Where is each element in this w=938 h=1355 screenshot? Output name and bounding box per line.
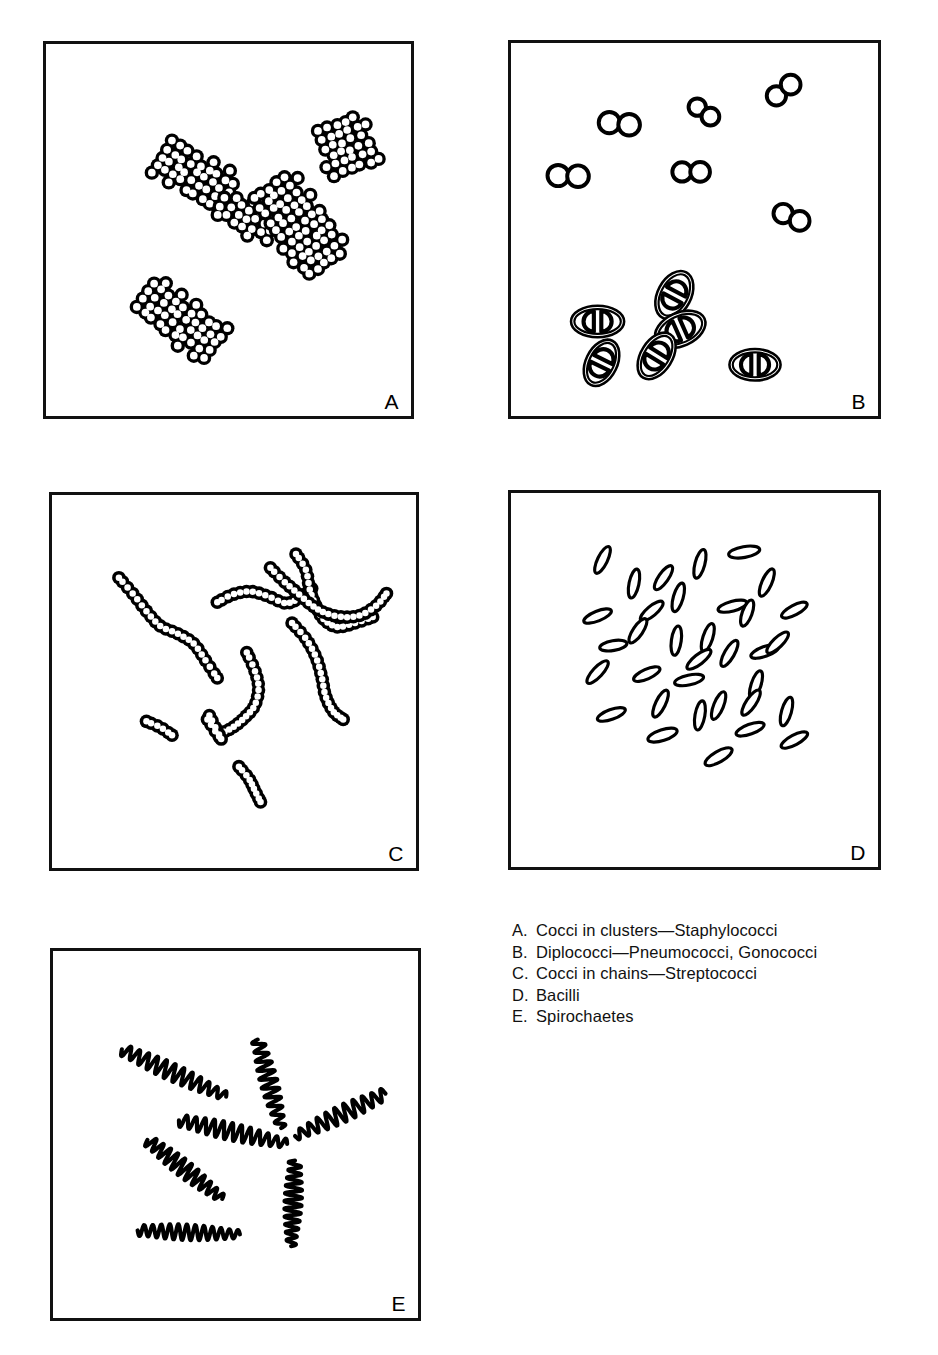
chain-coccus-lumen — [306, 640, 312, 646]
coccus-lumen — [300, 264, 308, 272]
panel-a-drawing — [46, 44, 411, 416]
coccus-lumen — [244, 232, 252, 240]
coccus-lumen — [190, 352, 198, 360]
coccus-lumen — [193, 153, 201, 161]
panel-b-diplococci: B — [508, 40, 881, 419]
coccus-lumen — [230, 219, 238, 227]
coccus-lumen — [161, 166, 169, 174]
coccus-lumen — [328, 231, 336, 239]
coccus-lumen — [238, 223, 246, 231]
chain-coccus-lumen — [255, 680, 261, 686]
panel-b-letter: B — [851, 391, 866, 412]
coccus-lumen — [223, 211, 231, 219]
diplococcus-cell — [781, 75, 801, 95]
coccus-lumen — [172, 298, 180, 306]
coccus-lumen — [367, 159, 375, 167]
panel-d-drawing — [511, 493, 878, 867]
coccus-lumen — [318, 226, 326, 234]
coccus-lumen — [189, 190, 197, 198]
chain-coccus-lumen — [237, 589, 243, 595]
legend-item: C.Cocci in chains—Streptococci — [512, 963, 912, 985]
chain-coccus-lumen — [246, 654, 252, 660]
coccus-lumen — [303, 238, 311, 246]
bacillus-rod — [703, 744, 735, 769]
coccus-lumen — [206, 200, 214, 208]
spirochaete-filament — [252, 1040, 285, 1129]
coccus-lumen — [265, 197, 273, 205]
chain-coccus-lumen — [305, 580, 311, 586]
coccus-lumen — [323, 124, 331, 132]
coccus-lumen — [174, 310, 182, 318]
encapsulated-coccus — [601, 311, 611, 332]
coccus-lumen — [312, 242, 320, 250]
legend-item-key: E. — [512, 1006, 536, 1028]
coccus-lumen — [229, 180, 237, 188]
coccus-lumen — [290, 258, 298, 266]
coccus-lumen — [206, 167, 214, 175]
coccus-lumen — [375, 155, 383, 163]
panel-c-letter: C — [388, 843, 404, 864]
coccus-lumen — [341, 157, 349, 165]
chain-coccus-lumen — [331, 613, 337, 619]
coccus-lumen — [342, 118, 350, 126]
chain-coccus-lumen — [190, 640, 196, 646]
coccus-lumen — [216, 203, 224, 211]
chain-coccus-lumen — [321, 689, 327, 695]
chain-coccus-lumen — [383, 590, 389, 596]
coccus-lumen — [205, 319, 213, 327]
coccus-lumen — [187, 176, 195, 184]
coccus-lumen — [194, 332, 202, 340]
legend-list: A.Cocci in clusters—StaphylococciB.Diplo… — [512, 920, 912, 1028]
legend-item-key: D. — [512, 985, 536, 1007]
chain-coccus-lumen — [319, 676, 325, 682]
chain-coccus-lumen — [268, 594, 274, 600]
coccus-lumen — [139, 295, 147, 303]
coccus-lumen — [221, 194, 229, 202]
chain-coccus-lumen — [143, 608, 149, 614]
coccus-lumen — [157, 320, 165, 328]
coccus-lumen — [337, 147, 345, 155]
bacteria-morphology-figure: A B C D E A.Cocci in clusters—Staphyloco… — [0, 0, 938, 1355]
encapsulated-coccus — [584, 311, 594, 332]
legend-item: B.Diplococci—Pneumococci, Gonococci — [512, 942, 912, 964]
chain-coccus-lumen — [124, 584, 130, 590]
coccus-lumen — [238, 201, 246, 209]
chain-coccus-lumen — [292, 623, 298, 629]
coccus-lumen — [165, 179, 173, 187]
coccus-lumen — [334, 121, 342, 129]
coccus-lumen — [305, 270, 313, 278]
coccus-lumen — [179, 334, 187, 342]
chain-coccus-lumen — [255, 687, 261, 693]
bacillus-rod — [626, 568, 642, 599]
coccus-lumen — [338, 140, 346, 148]
coccus-lumen — [165, 158, 173, 166]
coccus-lumen — [318, 136, 326, 144]
legend-item-key: A. — [512, 920, 536, 942]
coccus-lumen — [251, 194, 259, 202]
coccus-lumen — [306, 191, 314, 199]
panel-a-cocci-clusters: A — [43, 41, 414, 419]
coccus-lumen — [305, 248, 313, 256]
coccus-lumen — [133, 303, 141, 311]
coccus-lumen — [294, 174, 302, 182]
coccus-lumen — [222, 177, 230, 185]
figure-legend: A.Cocci in clusters—StaphylococciB.Diplo… — [512, 920, 912, 1028]
coccus-lumen — [355, 142, 363, 150]
coccus-lumen — [256, 204, 264, 212]
bacillus-rod — [596, 705, 627, 724]
chain-coccus-lumen — [325, 611, 331, 617]
coccus-lumen — [206, 346, 214, 354]
coccus-lumen — [272, 226, 280, 234]
legend-item: A.Cocci in clusters—Staphylococci — [512, 920, 912, 942]
coccus-lumen — [202, 186, 210, 194]
panel-b-drawing — [511, 43, 878, 416]
bacillus-rod — [626, 616, 650, 645]
chain-coccus-lumen — [340, 716, 346, 722]
coccus-lumen — [293, 189, 301, 197]
coccus-lumen — [320, 236, 328, 244]
coccus-lumen — [146, 303, 154, 311]
chain-coccus-lumen — [297, 629, 303, 635]
coccus-lumen — [299, 252, 307, 260]
coccus-lumen — [330, 151, 338, 159]
chain-coccus-lumen — [307, 586, 313, 592]
